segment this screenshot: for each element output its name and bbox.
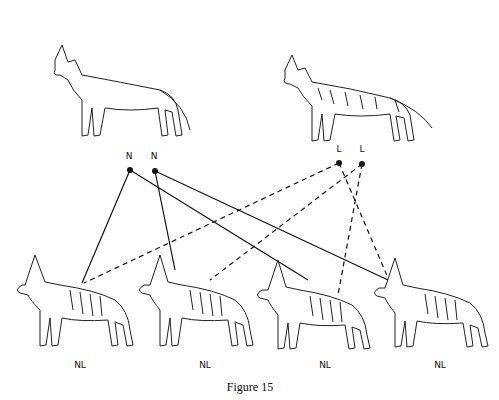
offspring-genotype-label: NL [74, 360, 86, 370]
connection-line-dashed [210, 164, 362, 280]
gene-label: N [151, 151, 158, 161]
offspring-genotype-label: NL [434, 360, 446, 370]
connection-line-solid [155, 171, 388, 280]
connection-line-dashed [84, 163, 339, 283]
gene-label: L [336, 144, 341, 154]
figure-caption: Figure 15 [227, 380, 273, 395]
gene-label: L [359, 144, 364, 154]
connection-line-dashed [338, 164, 362, 295]
connection-line-solid [82, 170, 130, 283]
gene-node-dot [359, 161, 365, 167]
offspring-genotype-label: NL [199, 360, 211, 370]
inheritance-lines [82, 163, 388, 295]
offspring-dog-3 [257, 260, 370, 349]
offspring-dog-2 [139, 255, 253, 346]
connection-line-solid [155, 171, 175, 270]
offspring-dog-4 [374, 258, 488, 347]
gene-node-dot [152, 168, 158, 174]
gene-node-dot [127, 167, 133, 173]
parent-dog-long-coat [284, 55, 432, 141]
gene-label: N [126, 151, 133, 161]
parent-dog-short-coat [54, 45, 190, 136]
gene-node-dot [336, 160, 342, 166]
offspring-genotype-label: NL [319, 360, 331, 370]
inheritance-diagram [0, 0, 499, 400]
